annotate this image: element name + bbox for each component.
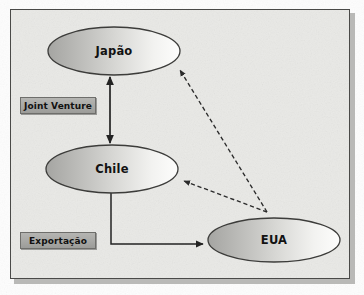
node-chile-label: Chile	[95, 162, 128, 176]
node-japao-label: Japão	[96, 44, 133, 58]
annotation-exportacao-label: Exportação	[29, 236, 87, 246]
node-japao[interactable]: Japão	[48, 27, 180, 75]
node-chile[interactable]: Chile	[46, 145, 178, 193]
annotation-joint-venture-label: Joint Venture	[24, 101, 92, 111]
diagram-canvas: Japão Chile EUA Joint Venture Exportação	[0, 0, 364, 295]
annotation-joint-venture[interactable]: Joint Venture	[20, 97, 96, 114]
node-eua[interactable]: EUA	[208, 218, 340, 262]
node-eua-label: EUA	[261, 233, 287, 247]
annotation-exportacao[interactable]: Exportação	[20, 232, 96, 249]
